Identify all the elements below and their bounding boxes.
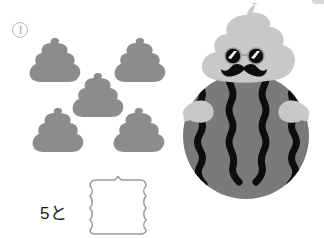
poop-icon	[73, 73, 124, 117]
poop-icon	[115, 38, 166, 82]
equation-prefix-label: 5と	[40, 199, 68, 224]
answer-input-box[interactable]	[86, 176, 150, 236]
poop-icon	[114, 108, 165, 152]
poop-watermelon-character-icon	[183, 3, 310, 199]
poop-icon	[30, 38, 81, 82]
